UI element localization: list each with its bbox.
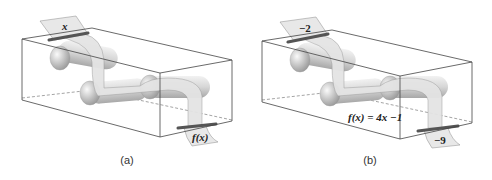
output-label: −9 [434,134,446,146]
function-machine-panel-b: −2 −9 f(x) = 4x −1 (b) [246,0,492,180]
function-rule-label: f(x) = 4x −1 [348,111,402,123]
function-machine-illustration [0,0,246,180]
input-label: x [62,20,68,32]
input-label: −2 [299,22,311,34]
function-machine-panel-a: x f(x) (a) [0,0,246,180]
output-label: f(x) [192,131,209,143]
panel-caption: (b) [350,154,390,166]
function-machine-illustration [246,0,492,180]
panel-caption: (a) [107,154,147,166]
